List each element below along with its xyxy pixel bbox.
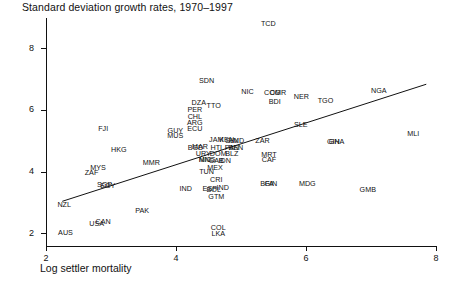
data-point-zaf: ZAF: [85, 169, 99, 177]
x-axis-title: Log settler mortality: [40, 262, 132, 274]
data-point-fji: FJI: [98, 125, 108, 133]
scatter-chart: Standard deviation growth rates, 1970–19…: [0, 0, 464, 286]
data-point-tgo: TGO: [318, 97, 334, 105]
data-point-gha: GHA: [329, 138, 345, 146]
data-point-ner: NER: [294, 93, 309, 101]
data-point-egy: EGY: [100, 182, 115, 190]
data-point-gin: GIN: [265, 180, 278, 188]
data-point-ind: IND: [180, 185, 192, 193]
y-tick-label-2: 2: [18, 228, 34, 238]
data-point-mus: MUS: [167, 132, 183, 140]
data-point-pak: PAK: [135, 208, 149, 216]
data-point-sle: SLE: [294, 121, 308, 129]
data-point-bdi: BDI: [269, 98, 281, 106]
data-point-ecu: ECU: [187, 125, 202, 133]
data-point-gmb: GMB: [360, 186, 376, 194]
y-tick-label-6: 6: [18, 104, 34, 114]
y-tick-label-8: 8: [18, 43, 34, 53]
x-tick-label-8: 8: [428, 253, 444, 263]
data-point-mmr: MMR: [143, 160, 160, 168]
data-point-tto: TTO: [207, 102, 221, 110]
data-point-can: CAN: [96, 218, 111, 226]
data-point-zar: ZAR: [255, 137, 269, 145]
y-tick-label-4: 4: [18, 166, 34, 176]
data-point-sdn: SDN: [199, 77, 214, 85]
data-point-mli: MLI: [407, 131, 419, 139]
data-point-caf: CAF: [262, 157, 276, 165]
x-tick-label-4: 4: [168, 253, 184, 263]
data-point-tcd: TCD: [261, 20, 276, 28]
data-point-nzl: NZL: [57, 202, 71, 210]
data-point-gtm: GTM: [208, 194, 224, 202]
data-point-nga: NGA: [371, 88, 387, 96]
data-point-hkg: HKG: [111, 146, 127, 154]
data-point-mdg: MDG: [299, 181, 316, 189]
data-point-aus: AUS: [58, 229, 73, 237]
data-point-nic: NIC: [241, 88, 253, 96]
data-point-ind: IND: [217, 184, 229, 192]
x-tick-label-6: 6: [298, 253, 314, 263]
data-point-lka: LKA: [211, 230, 225, 238]
